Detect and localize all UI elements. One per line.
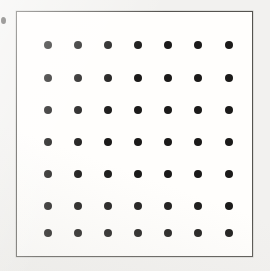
- edge-ink-mark-artifact: [1, 17, 6, 24]
- grid-dot: [164, 74, 172, 82]
- grid-dot: [74, 138, 82, 146]
- grid-dot: [194, 170, 202, 178]
- grid-dot: [164, 170, 172, 178]
- grid-dot: [225, 41, 233, 49]
- grid-dot: [74, 229, 82, 237]
- grid-dot: [44, 74, 52, 82]
- grid-dot: [74, 106, 82, 114]
- grid-dot: [194, 229, 202, 237]
- grid-dot: [194, 74, 202, 82]
- grid-dot: [74, 41, 82, 49]
- grid-dot: [134, 106, 142, 114]
- grid-dot: [194, 41, 202, 49]
- grid-dot: [164, 138, 172, 146]
- grid-dot: [104, 41, 112, 49]
- figure-border-frame: [16, 11, 253, 257]
- grid-dot: [194, 106, 202, 114]
- grid-dot: [134, 41, 142, 49]
- dot-grid: [17, 12, 252, 256]
- grid-dot: [194, 138, 202, 146]
- grid-dot: [104, 138, 112, 146]
- grid-dot: [104, 74, 112, 82]
- grid-dot: [104, 202, 112, 210]
- grid-dot: [104, 170, 112, 178]
- grid-dot: [164, 229, 172, 237]
- grid-dot: [194, 202, 202, 210]
- grid-dot: [225, 170, 233, 178]
- grid-dot: [134, 138, 142, 146]
- grid-dot: [104, 106, 112, 114]
- grid-dot: [225, 138, 233, 146]
- grid-dot: [44, 106, 52, 114]
- grid-dot: [44, 138, 52, 146]
- grid-dot: [225, 106, 233, 114]
- grid-dot: [44, 41, 52, 49]
- grid-dot: [74, 74, 82, 82]
- grid-dot: [164, 41, 172, 49]
- grid-dot: [164, 106, 172, 114]
- grid-dot: [225, 229, 233, 237]
- grid-dot: [74, 202, 82, 210]
- grid-dot: [104, 229, 112, 237]
- grid-dot: [225, 202, 233, 210]
- figure-canvas: [0, 0, 270, 271]
- grid-dot: [44, 229, 52, 237]
- grid-dot: [134, 170, 142, 178]
- grid-dot: [134, 202, 142, 210]
- grid-dot: [134, 74, 142, 82]
- grid-dot: [74, 170, 82, 178]
- grid-dot: [134, 229, 142, 237]
- grid-dot: [164, 202, 172, 210]
- grid-dot: [225, 74, 233, 82]
- grid-dot: [44, 202, 52, 210]
- grid-dot: [44, 170, 52, 178]
